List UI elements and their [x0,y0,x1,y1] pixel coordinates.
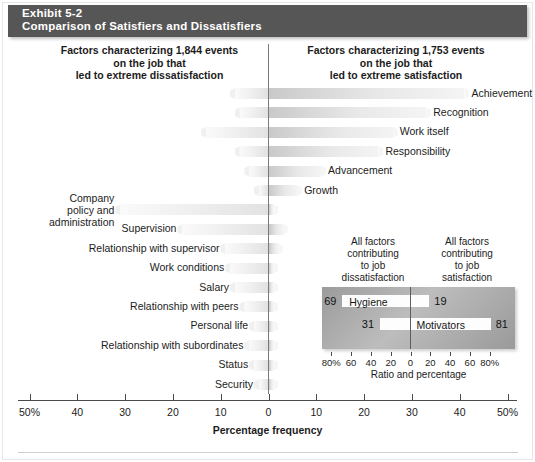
inset-value-right: 19 [434,295,446,307]
inset-tick [351,352,352,356]
bar-dissatisfaction [249,340,268,351]
bar-label: Status [218,359,248,370]
bar-label: Achievement [471,88,532,99]
x-tick-label: 0 [249,406,289,418]
bar-dissatisfaction [249,166,268,177]
x-tick [77,394,78,400]
bar-label: Company policy and administration [49,192,114,228]
x-tick-label: 10 [296,406,336,418]
bar-dissatisfaction [225,243,268,254]
plot-area: AchievementRecognitionWork itselfRespons… [0,0,535,462]
inset-value-left: 69 [324,295,336,307]
x-tick-label: 40 [57,406,97,418]
bar-satisfaction [269,379,274,390]
x-tick [316,394,317,400]
bar-satisfaction [269,321,274,332]
bar-satisfaction [269,243,279,254]
inset-axis-title: Ratio and percentage [322,369,515,380]
bar-dissatisfaction [254,321,268,332]
bar-satisfaction [269,185,298,196]
bar-label: Advancement [328,165,392,176]
x-tick [173,394,174,400]
inset-caption-satisfaction: All factors contributing to job satisfac… [424,236,510,284]
bottom-rule [18,452,518,453]
x-tick [508,394,509,400]
x-tick-label: 40 [440,406,480,418]
bar-label: Growth [304,185,338,196]
x-tick-label: 20 [344,406,384,418]
bar-satisfaction [269,301,274,312]
exhibit-figure: Exhibit 5-2 Comparison of Satisfiers and… [0,0,535,462]
inset-tick [490,352,491,356]
x-tick [412,394,413,400]
inset-tick [331,352,332,356]
x-tick [269,394,270,400]
inset-tick [470,352,471,356]
bar-label: Security [215,379,253,390]
bar-satisfaction [269,282,274,293]
inset-bar-right [411,295,430,307]
bar-dissatisfaction [259,379,269,390]
bar-dissatisfaction [259,185,269,196]
bar-label: Supervision [122,223,177,234]
bar-dissatisfaction [120,204,268,215]
inset-tick [430,352,431,356]
bar-label: Relationship with peers [130,301,239,312]
x-tick-label: 50% [10,406,50,418]
inset-bar-left [380,318,411,330]
bar-label: Relationship with subordinates [101,340,243,351]
inset-value-right: 81 [496,318,508,330]
inset-tick [391,352,392,356]
bar-dissatisfaction [245,301,269,312]
bar-dissatisfaction [206,127,268,138]
bar-label: Relationship with supervisor [89,243,220,254]
bar-label: Responsibility [385,146,450,157]
bar-dissatisfaction [240,146,269,157]
bar-satisfaction [269,224,283,235]
bar-satisfaction [269,127,393,138]
inset-series-name: Motivators [417,319,465,331]
x-axis-line [18,400,517,401]
bar-satisfaction [269,146,379,157]
bar-satisfaction [269,263,274,274]
x-axis-title: Percentage frequency [0,424,535,436]
bar-satisfaction [269,166,322,177]
inset-value-left: 31 [362,318,374,330]
bar-dissatisfaction [235,282,268,293]
bar-dissatisfaction [230,263,268,274]
inset-tick [450,352,451,356]
x-tick-label: 10 [201,406,241,418]
x-tick [364,394,365,400]
x-tick-label: 50% [488,406,528,418]
bar-satisfaction [269,107,427,118]
bar-dissatisfaction [182,224,268,235]
inset-tick [411,352,412,356]
x-tick [30,394,31,400]
bar-satisfaction [269,88,465,99]
x-tick-label: 30 [392,406,432,418]
x-tick [125,394,126,400]
bar-dissatisfaction [240,107,269,118]
x-tick [460,394,461,400]
x-tick [221,394,222,400]
inset-tick [371,352,372,356]
bar-satisfaction [269,340,274,351]
inset-caption-dissatisfaction: All factors contributing to job dissatis… [330,236,416,284]
inset-series-name: Hygiene [349,296,388,308]
bar-dissatisfaction [254,360,268,371]
bar-satisfaction [269,360,274,371]
inset-tick-label: 80% [477,357,503,368]
bar-label: Work conditions [150,262,225,273]
bar-label: Work itself [400,126,449,137]
x-tick-label: 30 [105,406,145,418]
bar-label: Salary [199,282,229,293]
bar-label: Recognition [433,107,488,118]
bar-satisfaction [269,204,274,215]
bar-label: Personal life [190,320,248,331]
bar-dissatisfaction [235,88,268,99]
x-tick-label: 20 [153,406,193,418]
